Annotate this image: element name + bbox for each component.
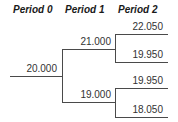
header-period-0: Period 0 (13, 4, 52, 15)
node-period2-du: 19.950 (126, 75, 163, 86)
branch-up (62, 49, 115, 50)
node-period0: 20.000 (20, 63, 57, 74)
node-period2-uu: 22.050 (126, 21, 163, 32)
branch-root (10, 76, 62, 77)
node-period1-down: 19.000 (74, 89, 111, 100)
header-period-2: Period 2 (118, 4, 157, 15)
branch-down (62, 102, 115, 103)
branch-dd (115, 117, 168, 118)
node-period1-up: 21.000 (74, 36, 111, 47)
header-period-1: Period 1 (65, 4, 104, 15)
branch-ud (115, 62, 168, 63)
split-period2-down (115, 88, 116, 118)
branch-du (115, 88, 168, 89)
split-period2-up (115, 34, 116, 63)
branch-uu (115, 34, 168, 35)
split-period1 (62, 49, 63, 103)
node-period2-dd: 18.050 (126, 104, 163, 115)
node-period2-ud: 19.950 (126, 49, 163, 60)
